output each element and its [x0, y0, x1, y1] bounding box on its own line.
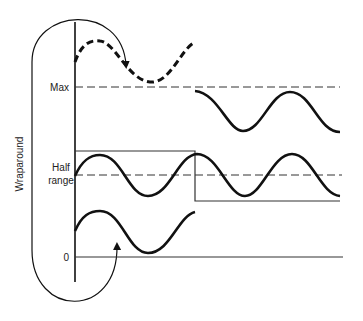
half-range-label-line2: range: [48, 175, 74, 186]
wrapped-sine: [75, 211, 195, 253]
dashed-overflow-sine: [75, 41, 195, 82]
upper-right-sine: [195, 91, 340, 132]
wraparound-label: Wraparound: [14, 137, 25, 192]
wraparound-diagram: Max Half range 0 Wraparound: [0, 0, 363, 321]
max-label: Max: [50, 82, 69, 93]
wraparound-loop-top: [32, 20, 126, 140]
zero-label: 0: [63, 252, 69, 263]
half-range-label-line1: Half: [52, 162, 70, 173]
